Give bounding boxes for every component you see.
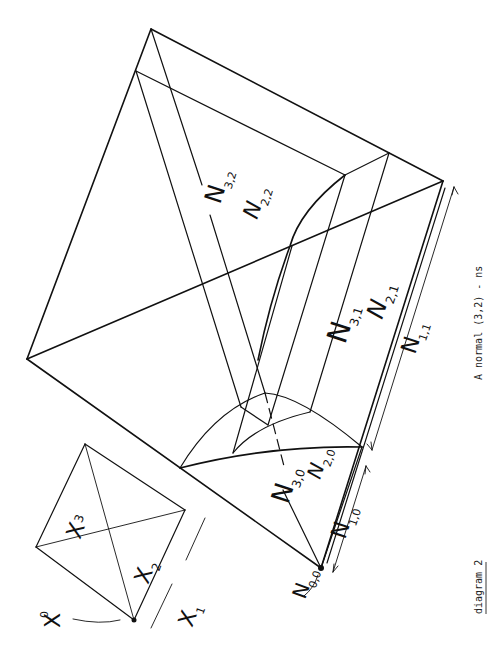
label-n30: N 3,0	[265, 461, 308, 507]
svg-text:diagram 2: diagram 2	[473, 560, 484, 614]
arrowhead-n11-bottom	[367, 442, 372, 450]
svg-text:2,1: 2,1	[383, 283, 402, 305]
dim-x1-top	[186, 518, 205, 560]
svg-text:A normal (3,2) - ns: A normal (3,2) - ns	[473, 266, 484, 380]
svg-text:2,2: 2,2	[258, 187, 276, 208]
slab-top-edge	[136, 71, 345, 175]
dim-x1-bottom	[151, 584, 172, 628]
diagonal-left-right	[27, 181, 443, 359]
label-n22: N 2,2	[238, 182, 276, 223]
x0-pointer-arrow	[73, 619, 120, 622]
label-n21: N 2,1	[361, 278, 402, 323]
vertex-n00	[318, 565, 324, 571]
figure-title: diagram 2	[473, 560, 486, 614]
small-diag-2	[85, 444, 134, 620]
edge-right-bottom-inner	[327, 188, 445, 563]
svg-text:X: X	[61, 519, 90, 542]
edge-right-bottom	[321, 181, 443, 568]
edge-top-left	[27, 29, 151, 359]
label-n20: N 2,0	[302, 443, 339, 483]
svg-text:3,2: 3,2	[222, 170, 240, 191]
svg-text:0,0: 0,0	[306, 569, 324, 590]
svg-text:1,1: 1,1	[416, 322, 434, 343]
edge-top-right	[151, 29, 443, 181]
caption: A normal (3,2) - ns	[473, 266, 484, 380]
interior-line-a2	[210, 215, 265, 393]
label-x3: X 3	[61, 511, 93, 542]
small-edge-4	[85, 444, 185, 510]
label-n10: N 1,0	[326, 502, 364, 543]
small-simplex	[36, 444, 205, 628]
small-diag-1	[36, 510, 185, 547]
label-n11: N 1,1	[396, 317, 434, 358]
label-n32: N 3,2	[199, 164, 239, 207]
arrowhead-n10-top	[365, 466, 370, 474]
label-x2: X 2	[129, 556, 164, 588]
arc-connector	[241, 407, 268, 425]
interior-line-d	[310, 153, 389, 412]
labels-small: X 0 X 1 X 2 X 3	[38, 511, 208, 631]
svg-text:0: 0	[38, 611, 51, 618]
arrowhead-n11-top	[452, 187, 458, 195]
dashed-line	[265, 393, 285, 470]
label-x1: X 1	[173, 600, 208, 632]
svg-text:2,0: 2,0	[321, 448, 339, 469]
large-figure	[27, 29, 458, 596]
interior-line-b	[136, 71, 241, 407]
small-edge-2	[36, 547, 134, 620]
slab-short-edge	[345, 153, 389, 175]
label-n31: N 3,1	[320, 299, 366, 348]
diagram-canvas: N 0,0 N 1,0 N 1,1 N 2,0 N 2,1 N 2,2 N 3,…	[0, 0, 498, 653]
svg-text:1,0: 1,0	[346, 507, 364, 528]
label-x0: X 0	[38, 611, 65, 628]
small-vertex-x0	[132, 618, 137, 623]
